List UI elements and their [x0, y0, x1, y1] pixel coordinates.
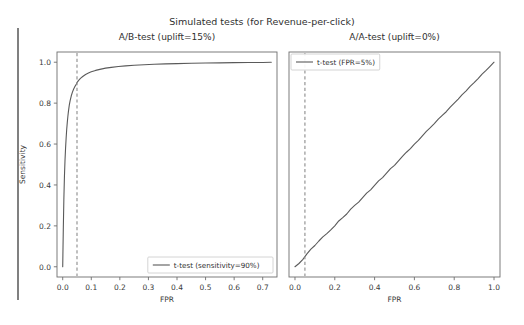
legend-label: t-test (FPR=5%): [317, 58, 375, 67]
x-tick-label: 0.0: [289, 283, 301, 292]
y-tick-label: 0.4: [39, 181, 51, 190]
x-tick-label: 0.0: [57, 283, 69, 292]
y-tick-label: 0.0: [39, 263, 51, 272]
legend-label: t-test (sensitivity=90%): [174, 261, 260, 270]
x-tick-label: 0.7: [257, 283, 269, 292]
y-tick-label: 0.2: [39, 222, 51, 231]
x-tick-label: 1.0: [488, 283, 500, 292]
x-tick-label: 0.3: [142, 283, 154, 292]
legend: t-test (sensitivity=90%): [148, 257, 273, 273]
x-axis-label: FPR: [160, 295, 174, 304]
x-tick-label: 0.2: [329, 283, 341, 292]
x-tick-label: 0.4: [171, 283, 183, 292]
x-tick-label: 0.8: [448, 283, 460, 292]
x-tick-label: 0.6: [228, 283, 240, 292]
legend: t-test (FPR=5%): [291, 54, 380, 70]
x-tick-label: 0.4: [369, 283, 381, 292]
y-tick-label: 0.6: [39, 140, 51, 149]
x-tick-label: 0.2: [114, 283, 126, 292]
subplot-title: A/A-test (uplift=0%): [349, 32, 439, 42]
figure-background: [0, 0, 524, 325]
y-axis-label: Sensitivity: [18, 144, 27, 184]
x-tick-label: 0.6: [408, 283, 420, 292]
subplot-title: A/B-test (uplift=15%): [119, 32, 215, 42]
x-tick-label: 0.5: [200, 283, 212, 292]
figure-canvas: Simulated tests (for Revenue-per-click) …: [0, 0, 524, 325]
x-tick-label: 0.1: [85, 283, 97, 292]
x-axis-label: FPR: [387, 295, 401, 304]
figure-suptitle: Simulated tests (for Revenue-per-click): [169, 16, 354, 27]
y-tick-label: 1.0: [39, 58, 51, 67]
y-tick-label: 0.8: [39, 99, 51, 108]
